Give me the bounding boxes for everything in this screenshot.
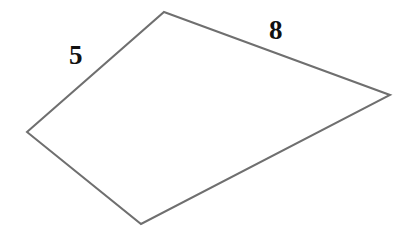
side-length-label-top-right: 8 [269,17,283,44]
side-length-label-left: 5 [69,42,83,69]
quadrilateral-figure: 5 8 [0,0,408,231]
quadrilateral-shape-svg [0,0,408,231]
